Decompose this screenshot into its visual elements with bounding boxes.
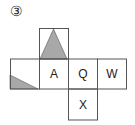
left-cell-triangle [10,75,38,89]
cell-label-a: A [40,67,69,81]
cube-net-diagram [0,0,135,125]
cell-label-q: Q [69,67,98,81]
cell-label-w: W [98,67,127,81]
cell-label-x: X [69,98,98,112]
top-cell-triangle [40,29,67,59]
